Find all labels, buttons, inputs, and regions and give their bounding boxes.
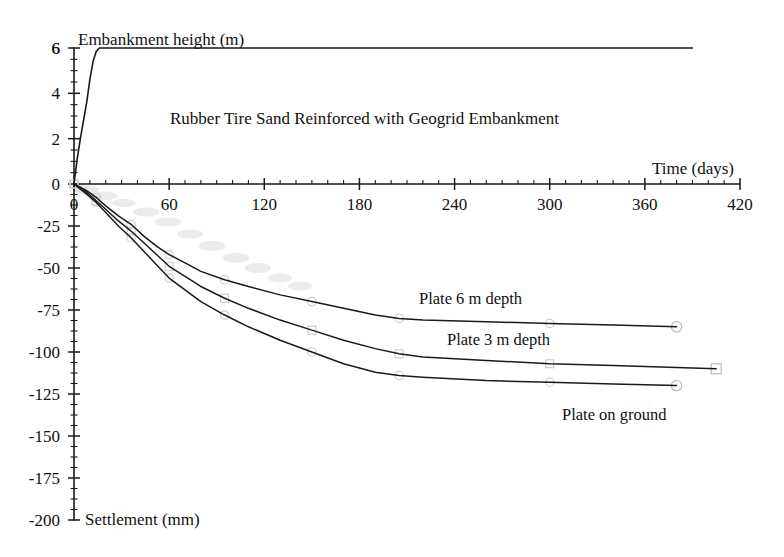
scan-smudge (199, 241, 225, 251)
x-tick-label-300: 300 (537, 195, 563, 214)
x-tick-label-120: 120 (252, 195, 278, 214)
scan-smudge (133, 208, 159, 217)
series-label-plate-3m: Plate 3 m depth (447, 330, 551, 349)
y-tick-label-settlement--50: -50 (37, 259, 60, 278)
series-label-plate-ground: Plate on ground (562, 405, 667, 424)
y-tick-label-settlement--125: -125 (29, 385, 60, 404)
x-tick-label-420: 420 (727, 195, 753, 214)
x-tick-label-360: 360 (632, 195, 658, 214)
series-line-plate-on-ground (74, 184, 677, 386)
scan-smudge (268, 274, 292, 283)
x-axis-caption: Time (days) (652, 159, 734, 178)
y-tick-label-settlement--100: -100 (29, 343, 60, 362)
y-tick-label-height-2: 2 (52, 130, 61, 149)
series-label-plate-6m: Plate 6 m depth (419, 289, 523, 308)
bottom-axis-caption: Settlement (mm) (85, 510, 200, 529)
y-tick-label-settlement--25: -25 (37, 217, 60, 236)
settlement-time-chart: 24660-25-50-75-100-125-150-175-200060120… (0, 0, 784, 557)
y-tick-label-height-4: 4 (52, 84, 61, 103)
y-tick-label-height-6: 6 (52, 39, 61, 58)
chart-series-lines (74, 48, 716, 386)
y-tick-label-settlement-0: 0 (52, 175, 61, 194)
top-axis-caption: Embankment height (m) (78, 30, 244, 49)
scan-smudge (155, 218, 181, 227)
y-tick-label-settlement--75: -75 (37, 301, 60, 320)
chart-title: Rubber Tire Sand Reinforced with Geogrid… (170, 109, 559, 128)
y-tick-label-settlement--200: -200 (29, 511, 60, 530)
chart-text-annotations: Rubber Tire Sand Reinforced with Geogrid… (78, 30, 734, 529)
x-tick-label-240: 240 (442, 195, 468, 214)
scan-smudge (245, 263, 271, 273)
chart-canvas: 24660-25-50-75-100-125-150-175-200060120… (0, 0, 784, 557)
scan-smudge (112, 199, 136, 207)
y-tick-label-settlement--150: -150 (29, 427, 60, 446)
x-tick-label-180: 180 (347, 195, 373, 214)
y-tick-label-settlement--175: -175 (29, 469, 60, 488)
scan-smudge (177, 230, 203, 239)
scan-smudge (288, 282, 312, 291)
x-tick-label-60: 60 (161, 195, 178, 214)
x-tick-label-0: 0 (70, 195, 79, 214)
scan-smudge (223, 253, 249, 263)
